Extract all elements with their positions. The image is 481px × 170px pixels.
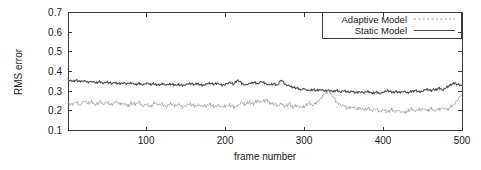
y-tick-label: 0.7: [48, 7, 62, 18]
y-tick-label: 0.1: [48, 125, 62, 136]
x-axis-title: frame number: [234, 151, 297, 162]
chart-figure: 0.10.20.30.40.50.60.7 100200300400500 fr…: [0, 0, 481, 170]
x-tick-label: 400: [375, 135, 392, 146]
series-line-static-model: [68, 78, 462, 94]
x-tick-label: 300: [296, 135, 313, 146]
series-line-adaptive-model: [68, 90, 462, 114]
legend-label-adaptive-model: Adaptive Model: [342, 14, 407, 25]
y-tick-label: 0.6: [48, 27, 62, 38]
y-tick-label: 0.5: [48, 46, 62, 57]
x-axis-tick-labels: 100200300400500: [138, 135, 471, 146]
y-tick-label: 0.4: [48, 66, 62, 77]
x-tick-label: 200: [217, 135, 234, 146]
y-tick-label: 0.2: [48, 105, 62, 116]
y-axis-tick-labels: 0.10.20.30.40.50.60.7: [48, 7, 62, 136]
y-axis-title: RMS error: [13, 48, 24, 95]
rms-error-line-chart: 0.10.20.30.40.50.60.7 100200300400500 fr…: [0, 0, 481, 170]
legend-label-static-model: Static Model: [355, 25, 407, 36]
x-tick-label: 500: [454, 135, 471, 146]
x-tick-label: 100: [138, 135, 155, 146]
data-series-group: [68, 78, 462, 113]
y-tick-label: 0.3: [48, 86, 62, 97]
